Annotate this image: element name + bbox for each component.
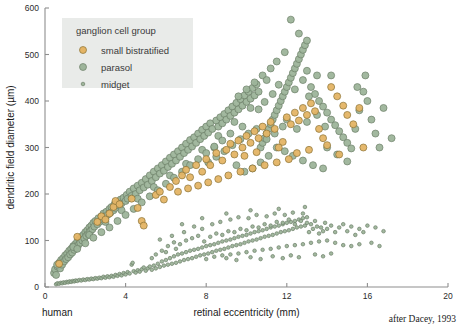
data-point [261,248,265,252]
data-point [210,250,214,254]
data-point [297,255,301,259]
data-point [249,208,253,212]
data-point [199,168,206,175]
data-point [202,240,206,244]
x-tick-label: 4 [123,291,128,301]
data-point [239,242,243,246]
data-point [150,256,154,260]
data-point [204,257,208,261]
data-point [372,130,379,137]
chart-root: 0481216200100200300400500600dendritic fi… [0,0,462,326]
data-point [200,246,204,250]
data-point [241,234,245,238]
data-point [350,121,357,128]
data-point [349,244,353,248]
data-point [259,257,263,261]
data-point [140,222,147,229]
data-point [316,125,323,132]
data-point [277,246,281,250]
data-point [313,219,317,223]
data-point [277,207,281,211]
data-point [221,240,225,244]
data-point [320,103,327,110]
data-point [235,137,242,144]
data-point [211,143,218,150]
data-point [382,229,386,233]
data-point [227,140,234,147]
data-point [184,250,188,254]
data-point [287,121,294,128]
data-point [227,130,234,137]
data-point [249,255,253,259]
data-point [233,230,237,234]
data-point [134,204,141,211]
data-point [328,84,335,91]
data-point [334,93,341,100]
data-point [116,201,123,208]
data-point [362,230,366,234]
data-point [249,232,253,236]
data-point [312,108,319,115]
data-point [309,222,313,226]
data-point [202,253,206,257]
data-point [285,156,292,163]
data-point [259,123,266,130]
data-point [174,247,178,251]
data-point [128,195,135,202]
legend-marker-parasol [80,64,87,71]
data-point [320,165,327,172]
data-point [307,84,314,91]
data-point [160,249,164,253]
data-point [216,241,220,245]
data-point [176,253,180,257]
data-point [267,65,274,72]
data-point [332,122,339,129]
data-point [287,228,291,232]
data-point [233,236,237,240]
data-point [321,255,325,259]
x-tick-label: 20 [443,291,453,301]
data-point [204,244,208,248]
data-point [114,217,121,224]
y-tick-label: 300 [25,143,39,153]
data-point [279,123,286,130]
x-tick-label: 8 [204,291,209,301]
data-point [291,227,295,231]
data-point [166,263,170,267]
data-point [210,222,214,226]
data-point [200,227,204,231]
source-credit: after Dacey, 1993 [389,314,456,324]
data-point [307,230,311,234]
data-point [323,221,327,225]
data-point [329,252,333,256]
data-point [360,88,367,95]
data-point [281,221,285,225]
data-point [90,234,97,241]
data-point [235,258,239,262]
data-point [225,212,229,216]
data-point [261,98,268,105]
data-point [106,210,113,217]
data-point [192,225,196,229]
data-point [265,215,269,219]
data-point [208,235,212,239]
data-point [341,222,345,226]
data-point [263,77,270,84]
data-point [279,230,283,234]
data-point [185,185,192,192]
data-point [235,243,239,247]
data-point [188,249,192,253]
data-point [291,86,298,93]
data-point [251,239,255,243]
y-axis-title: dendritic field diameter (µm) [5,85,16,209]
data-point [206,252,210,256]
data-point [251,128,258,135]
data-point [320,135,327,142]
data-point [225,239,229,243]
data-point [194,255,198,259]
data-point [255,135,262,142]
data-point [293,222,297,226]
data-point [237,215,241,219]
species-label: human [42,307,73,318]
legend-label-small-bistratified: small bistratified [101,45,169,56]
